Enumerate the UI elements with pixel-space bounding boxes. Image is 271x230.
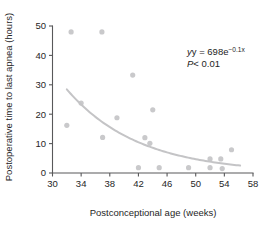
data-point <box>157 165 162 170</box>
data-point <box>186 165 191 170</box>
y-tick-label: 20 <box>35 109 46 120</box>
x-tick-label: 58 <box>248 178 259 189</box>
y-tick-label: 0 <box>41 167 46 178</box>
x-tick-label: 46 <box>162 178 173 189</box>
x-tick-label: 38 <box>104 178 115 189</box>
equation-body: y = 698e <box>192 46 229 57</box>
y-tick-label: 10 <box>35 138 46 149</box>
data-point <box>229 147 234 152</box>
y-axis-ticks: 01020304050 <box>35 20 52 178</box>
x-tick-label: 54 <box>219 178 230 189</box>
p-value-text: < 0.01 <box>193 58 220 69</box>
data-point <box>64 123 69 128</box>
regression-curve <box>67 89 240 165</box>
y-tick-label: 30 <box>35 79 46 90</box>
chart-canvas: 01020304050 3034384246505458 Postoperati… <box>0 0 271 230</box>
fit-equation: yy = 698e−0.1x <box>186 46 245 57</box>
y-tick-label: 50 <box>35 20 46 31</box>
data-point <box>218 156 223 161</box>
data-point <box>99 29 104 34</box>
x-axis-ticks: 3034384246505458 <box>47 173 258 189</box>
equation-exponent: −0.1x <box>228 46 245 53</box>
y-axis-title: Postoperative time to last apnea (hours) <box>3 13 14 181</box>
data-point <box>69 29 74 34</box>
data-point <box>136 165 141 170</box>
data-point <box>207 165 212 170</box>
data-point <box>220 166 225 171</box>
x-tick-label: 30 <box>47 178 58 189</box>
data-point <box>100 135 105 140</box>
x-tick-label: 42 <box>133 178 144 189</box>
p-value: P< 0.01 <box>187 58 220 69</box>
x-axis-title: Postconceptional age (weeks) <box>90 207 217 218</box>
data-point <box>130 72 135 77</box>
x-tick-label: 34 <box>76 178 87 189</box>
data-point <box>142 135 147 140</box>
y-tick-label: 40 <box>35 50 46 61</box>
data-point <box>114 115 119 120</box>
x-tick-label: 50 <box>190 178 201 189</box>
scatter-plot-figure: 01020304050 3034384246505458 Postoperati… <box>0 0 271 230</box>
data-point <box>150 107 155 112</box>
fit-annotation: yy = 698e−0.1x P< 0.01 <box>186 46 245 69</box>
